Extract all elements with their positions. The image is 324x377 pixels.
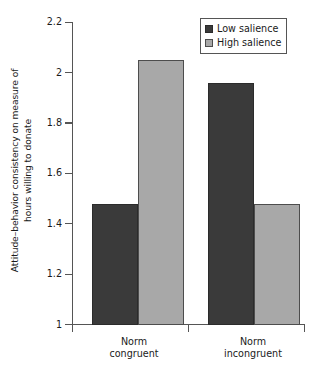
- y-tick-mark: [65, 274, 72, 275]
- y-axis-line: [72, 22, 73, 325]
- y-tick-mark: [65, 22, 72, 23]
- bar-norm-congruent-high-salience: [138, 60, 184, 325]
- chart-legend: Low salience High salience: [200, 18, 287, 54]
- x-tick-end: [304, 325, 305, 332]
- x-category-label-norm-congruent: Norm congruent: [78, 336, 190, 360]
- y-tick-mark: [65, 122, 72, 123]
- legend-label-low-salience: Low salience: [217, 24, 278, 34]
- y-tick-label: 1.8: [38, 118, 62, 128]
- y-axis-label-line-2: hours willing to donate: [22, 68, 35, 272]
- bar-chart-figure: Attitude–behavior consistency on measure…: [0, 0, 324, 377]
- legend-item-low-salience: Low salience: [205, 22, 281, 36]
- y-tick-mark: [65, 324, 72, 325]
- legend-label-high-salience: High salience: [217, 38, 281, 48]
- legend-item-high-salience: High salience: [205, 36, 281, 50]
- y-tick-label: 1.6: [38, 168, 62, 178]
- bar-norm-incongruent-low-salience: [208, 83, 254, 326]
- x-category-label-norm-incongruent: Norm incongruent: [194, 336, 312, 360]
- y-tick-mark: [65, 72, 72, 73]
- legend-swatch-high-salience-icon: [205, 39, 213, 47]
- bar-norm-incongruent-high-salience: [254, 204, 300, 326]
- legend-swatch-low-salience-icon: [205, 25, 213, 33]
- y-tick-label: 2: [38, 68, 62, 78]
- y-tick-mark: [65, 223, 72, 224]
- y-tick-label: 1.4: [38, 219, 62, 229]
- x-category-line-2: incongruent: [194, 348, 312, 360]
- x-category-line-2: congruent: [78, 348, 190, 360]
- y-tick-label: 2.2: [38, 17, 62, 27]
- bar-norm-congruent-low-salience: [92, 204, 138, 326]
- x-tick-group-divider: [188, 325, 189, 332]
- y-axis-label-line-1: Attitude–behavior consistency on measure…: [10, 68, 21, 272]
- x-category-line-1: Norm: [240, 336, 266, 347]
- x-tick-start: [72, 325, 73, 332]
- y-tick-label: 1.2: [38, 269, 62, 279]
- x-category-line-1: Norm: [121, 336, 147, 347]
- y-tick-mark: [65, 173, 72, 174]
- y-tick-label: 1: [38, 320, 62, 330]
